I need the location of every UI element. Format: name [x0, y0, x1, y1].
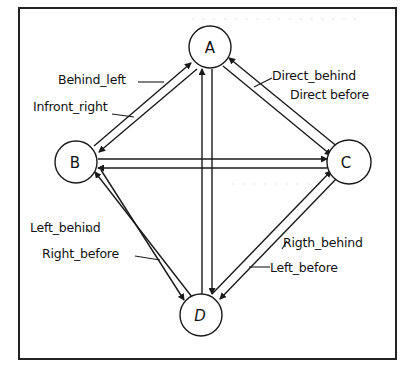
label-infront-right: Infront_right	[33, 99, 108, 114]
edge-b-to-d	[101, 170, 184, 300]
label-behind-left: Behind_left	[58, 72, 126, 87]
node-a: A	[189, 26, 231, 68]
label-direct-behind: Direct_behind	[272, 68, 356, 83]
label-direct-before: Direct before	[290, 87, 370, 102]
svg-text:. . . . . . . . .: . . . . . . . . .	[230, 169, 322, 189]
node-b-label: B	[70, 154, 80, 172]
node-d: D	[180, 294, 222, 336]
label-left-behind: Left_behind	[30, 220, 100, 235]
diagram-canvas: . . . . . . . . . . . . . . . . . . . . …	[0, 0, 413, 373]
diagram-figure: . . . . . . . . . . . . . . . . . . . . …	[0, 0, 413, 373]
node-c-label: C	[341, 154, 351, 172]
label-right-before: Right_before	[42, 246, 120, 261]
edge-d-to-c	[212, 171, 331, 294]
edge-pair-a-d	[202, 69, 212, 294]
node-d-label: D	[194, 307, 206, 325]
label-rigth-behind: Rigth_behind	[283, 235, 363, 250]
node-b: B	[55, 141, 97, 183]
node-a-label: A	[205, 39, 216, 57]
edge-d-to-b	[95, 172, 192, 297]
label-left-before: Left_before	[270, 260, 338, 275]
node-c: C	[327, 140, 371, 184]
edge-pair-b-d	[95, 170, 192, 300]
